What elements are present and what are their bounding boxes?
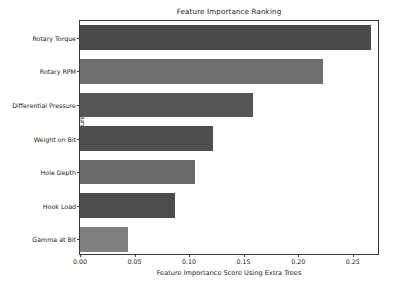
chart-title: Feature Importance Ranking xyxy=(79,7,379,16)
x-tick-label: 0.05 xyxy=(128,258,142,265)
x-tick-label: 0.10 xyxy=(182,258,196,265)
bar-rotary-torque[interactable] xyxy=(80,25,371,50)
y-tick-label-hole-depth: Hole Depth xyxy=(41,169,76,176)
bar-row xyxy=(80,25,378,50)
y-tick-mark xyxy=(77,139,80,140)
bar-row xyxy=(80,126,378,151)
x-tick-mark xyxy=(244,254,245,257)
bar-row xyxy=(80,93,378,118)
y-tick-label-differential-pressure: Differential Pressure xyxy=(12,101,76,108)
y-tick-mark xyxy=(77,105,80,106)
bar-row xyxy=(80,227,378,252)
y-tick-mark xyxy=(77,172,80,173)
feature-importance-chart-figure: Feature Importance Ranking Features Rota… xyxy=(0,0,394,294)
bar-rotary-rpm[interactable] xyxy=(80,59,323,84)
x-tick-label: 0.15 xyxy=(237,258,251,265)
bar-row xyxy=(80,59,378,84)
y-tick-mark xyxy=(77,38,80,39)
y-tick-mark xyxy=(77,71,80,72)
bar-gamma-at-bit[interactable] xyxy=(80,227,128,252)
bar-row xyxy=(80,193,378,218)
bar-row xyxy=(80,160,378,185)
x-tick-label: 0.00 xyxy=(73,258,87,265)
bar-hole-depth[interactable] xyxy=(80,160,195,185)
x-tick-label: 0.20 xyxy=(291,258,305,265)
y-tick-label-rotary-rpm: Rotary RPM xyxy=(40,68,76,75)
y-tick-label-gamma-at-bit: Gamma at Bit xyxy=(32,236,76,243)
x-tick-mark xyxy=(298,254,299,257)
bar-differential-pressure[interactable] xyxy=(80,93,253,118)
bar-hook-load[interactable] xyxy=(80,193,175,218)
plot-area: Features Rotary TorqueRotary RPMDifferen… xyxy=(79,20,379,255)
x-tick-mark xyxy=(135,254,136,257)
y-tick-label-rotary-torque: Rotary Torque xyxy=(32,34,76,41)
y-tick-label-hook-load: Hook Load xyxy=(43,202,76,209)
y-tick-label-weight-on-bit: Weight on Bit xyxy=(34,135,76,142)
x-tick-mark xyxy=(353,254,354,257)
x-axis-title: Feature Importance Score Using Extra Tre… xyxy=(79,269,379,277)
x-tick-label: 0.25 xyxy=(346,258,360,265)
y-tick-mark xyxy=(77,239,80,240)
x-tick-mark xyxy=(189,254,190,257)
y-tick-mark xyxy=(77,206,80,207)
x-tick-mark xyxy=(80,254,81,257)
bar-weight-on-bit[interactable] xyxy=(80,126,213,151)
bars-layer xyxy=(80,21,378,254)
